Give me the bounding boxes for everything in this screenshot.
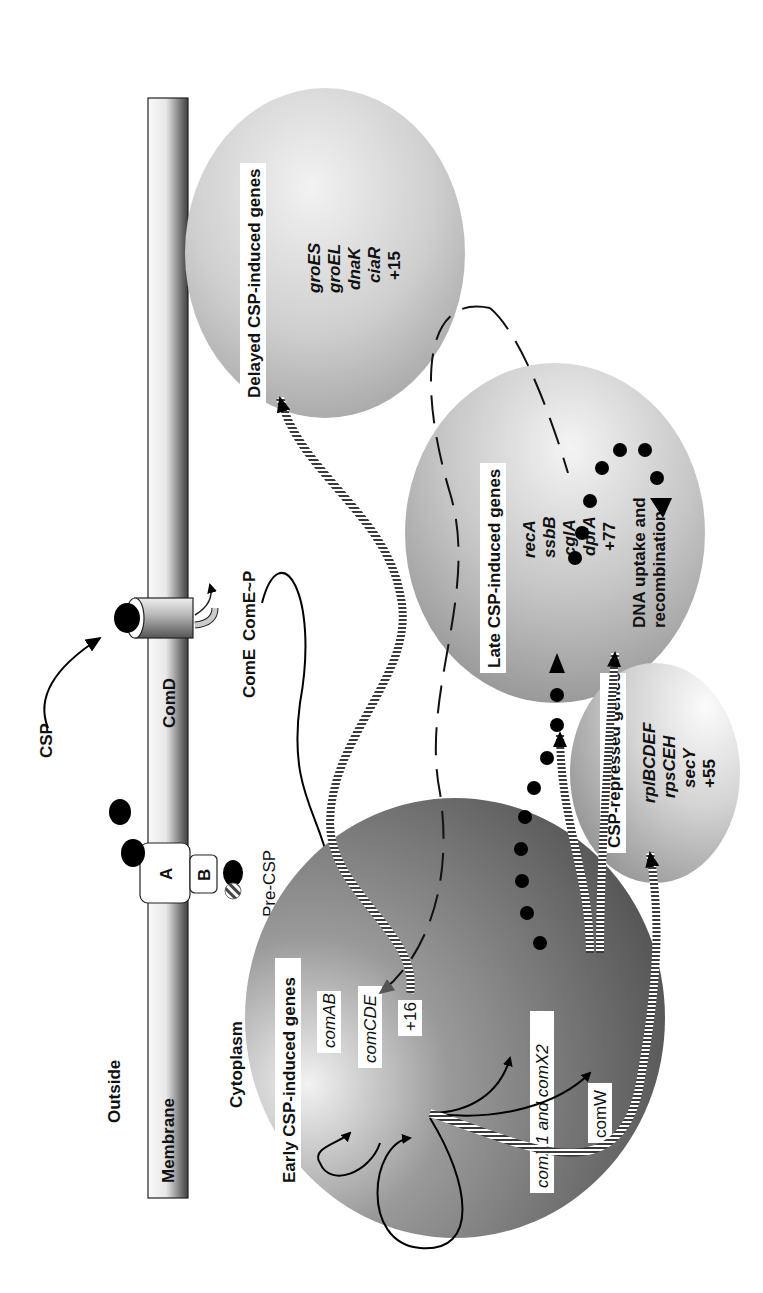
membrane-bar: [148, 98, 188, 1198]
delayed-gene-count: +15: [385, 251, 404, 280]
transporter-a-label: A: [157, 868, 176, 880]
delayed-gene: dnaK: [345, 246, 364, 290]
rotated-figure: Membrane Outside Cytoplasm A B Pre-CSP C…: [37, 88, 740, 1248]
dna-uptake-label-1: DNA uptake and: [630, 497, 649, 628]
early-genes-title: Early CSP-induced genes: [280, 977, 299, 1183]
delayed-gene: groES: [305, 242, 324, 294]
late-gene-count: +77: [600, 522, 619, 551]
csp-binding-arrow: [44, 638, 100, 728]
csp-label: CSP: [37, 723, 56, 758]
csp-molecule: [121, 839, 145, 867]
early-gene: comW: [591, 1090, 610, 1138]
membrane-label: Membrane: [159, 1098, 178, 1183]
leader-peptide: [225, 883, 241, 899]
late-gene: ssbB: [540, 516, 559, 558]
early-gene: comCDE: [361, 994, 380, 1063]
transporter-b-label: B: [195, 869, 214, 881]
delayed-gene: groEL: [325, 244, 344, 294]
phosphorylation-arrow: [195, 585, 211, 615]
outside-label: Outside: [105, 1060, 124, 1123]
delayed-genes-title: Delayed CSP-induced genes: [245, 168, 264, 398]
late-genes-title: Late CSP-induced genes: [485, 469, 504, 668]
repressed-gene: rplBCDEF: [640, 722, 659, 803]
comD-label: ComD: [160, 678, 179, 728]
repressed-gene-count: +55: [700, 759, 719, 788]
cytoplasm-label: Cytoplasm: [227, 1021, 246, 1108]
comE-label: ComE: [240, 649, 259, 698]
pre-csp-molecule: [223, 860, 243, 886]
late-gene: cglA: [560, 519, 579, 556]
early-gene: comX1 and comX2: [533, 1044, 552, 1188]
late-gene: recA: [520, 520, 539, 558]
competence-regulation-diagram: Membrane Outside Cytoplasm A B Pre-CSP C…: [0, 0, 763, 1293]
delayed-gene: ciaR: [365, 246, 384, 283]
early-gene-count: +16: [401, 1002, 420, 1031]
comAB-transporter: A B Pre-CSP: [109, 799, 279, 917]
csp-molecule: [109, 799, 131, 825]
early-gene: comAB: [320, 993, 339, 1048]
bound-csp: [114, 603, 140, 633]
diagram-canvas: Membrane Outside Cytoplasm A B Pre-CSP C…: [0, 0, 763, 1293]
repressed-gene: secY: [680, 747, 699, 788]
dna-uptake-label-2: recombination: [650, 511, 669, 628]
comE-p-label: ComE~P: [240, 571, 259, 641]
repressed-gene: rpsCEH: [660, 735, 679, 798]
